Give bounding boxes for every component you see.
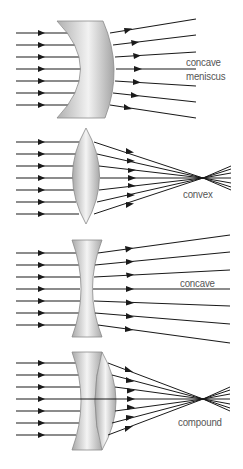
incoming-rays (16, 139, 79, 217)
converging-rays (94, 142, 231, 214)
diverging-rays (93, 235, 230, 343)
panel-compound (16, 352, 230, 450)
panel-concave (16, 235, 230, 343)
label-compound: compound (178, 416, 222, 428)
panel-convex (16, 128, 231, 224)
incoming-rays (16, 360, 80, 438)
incoming-rays (16, 250, 80, 328)
panel-concave-meniscus (16, 19, 196, 118)
arrowheads (125, 246, 134, 332)
outgoing-rays (110, 19, 196, 118)
label-convex: convex (183, 188, 213, 200)
label-concave-meniscus-line1: concave (186, 56, 221, 68)
compound-convex-element (95, 352, 116, 450)
label-concave-meniscus-line2: meniscus (186, 70, 225, 82)
label-concave: concave (180, 277, 215, 289)
